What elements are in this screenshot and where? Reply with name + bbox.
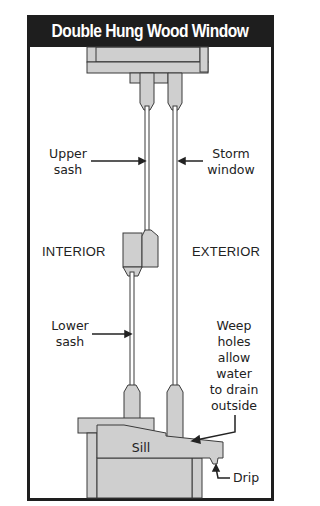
label-line: Upper bbox=[46, 146, 90, 162]
label-upper-sash: Upper sash bbox=[46, 146, 90, 178]
label-lower-sash: Lower sash bbox=[48, 318, 92, 350]
label-line: sash bbox=[46, 162, 90, 178]
label-line: to drain bbox=[204, 382, 264, 398]
label-line: water bbox=[204, 366, 264, 382]
label-line: outside bbox=[204, 398, 264, 414]
label-weep-holes: Weep holes allow water to drain outside bbox=[204, 318, 264, 414]
label-exterior: EXTERIOR bbox=[192, 244, 260, 259]
storm-top-rail bbox=[168, 73, 182, 110]
label-storm-window: Storm window bbox=[203, 146, 259, 178]
label-sill: Sill bbox=[126, 440, 156, 456]
label-line: allow bbox=[204, 350, 264, 366]
upper-sash-top-rail bbox=[140, 73, 154, 110]
sill bbox=[97, 425, 223, 464]
head-jamb-top bbox=[87, 47, 208, 62]
label-drip: Drip bbox=[231, 470, 261, 486]
label-line: holes bbox=[204, 334, 264, 350]
label-line: Storm bbox=[203, 146, 259, 162]
lower-sash-meeting-rail bbox=[123, 233, 142, 267]
label-line: sash bbox=[48, 334, 92, 350]
storm-bottom-rail bbox=[167, 385, 183, 440]
label-line: Weep bbox=[204, 318, 264, 334]
label-line: Lower bbox=[48, 318, 92, 334]
upper-sash-meeting-rail bbox=[142, 230, 158, 267]
label-interior: INTERIOR bbox=[42, 244, 106, 259]
head-jamb bbox=[87, 62, 208, 73]
label-line: window bbox=[203, 162, 259, 178]
